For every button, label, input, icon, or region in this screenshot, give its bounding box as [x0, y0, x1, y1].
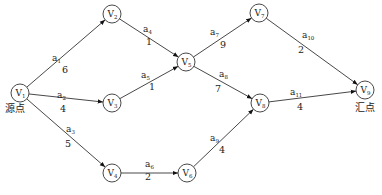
edge-name-label: a6 — [145, 159, 154, 170]
edge-weight-label: 7 — [215, 83, 221, 94]
node-v9: V9 — [356, 81, 374, 99]
edge-arrow — [193, 109, 253, 167]
edge-name-label: a2 — [57, 90, 66, 101]
diagram-canvas: a16a24a35a41a51a62a79a87a94a102a114 V1V2… — [0, 0, 382, 195]
node-v3: V3 — [103, 94, 121, 112]
node-v5: V5 — [177, 53, 195, 71]
node-v8: V8 — [251, 94, 269, 112]
edge-name-label: a1 — [52, 53, 61, 64]
edge-weight-label: 5 — [65, 138, 71, 149]
edge-weight-label: 6 — [62, 64, 68, 75]
edge-v4-v6: a62 — [121, 159, 178, 182]
node-v1: V1 — [11, 84, 29, 102]
edge-v2-v5: a41 — [120, 19, 179, 57]
node-v2: V2 — [103, 5, 121, 23]
edge-name-label: a9 — [210, 133, 219, 144]
aoe-network-diagram: a16a24a35a41a51a62a79a87a94a102a114 V1V2… — [0, 0, 382, 195]
edge-weight-label: 4 — [219, 144, 225, 155]
edge-arrow — [29, 94, 103, 102]
edge-arrow — [27, 20, 105, 87]
edge-v5-v7: a79 — [193, 18, 251, 57]
edge-weight-label: 1 — [149, 81, 155, 92]
edge-weight-label: 2 — [145, 171, 151, 182]
edge-v6-v8: a94 — [193, 109, 253, 167]
sink-label: 汇点 — [355, 101, 375, 113]
node-v6: V6 — [178, 164, 196, 182]
edge-arrow — [193, 18, 251, 57]
node-v7: V7 — [250, 4, 268, 22]
edge-weight-label: 4 — [60, 103, 66, 114]
edge-v3-v5: a51 — [120, 66, 178, 98]
edge-name-label: a7 — [210, 27, 219, 38]
edge-name-label: a5 — [141, 70, 150, 81]
edge-arrow — [266, 18, 357, 84]
edge-weight-label: 1 — [146, 36, 152, 47]
edge-name-label: a8 — [219, 69, 228, 80]
edge-weight-label: 2 — [298, 44, 304, 55]
edge-v7-v9: a102 — [266, 18, 357, 84]
edge-weight-label: 9 — [220, 39, 226, 50]
edge-name-label: a11 — [290, 87, 302, 98]
edge-weight-label: 4 — [297, 101, 303, 112]
node-v4: V4 — [103, 164, 121, 182]
edge-v5-v8: a87 — [194, 66, 252, 98]
source-label: 源点 — [5, 102, 25, 114]
edge-name-label: a3 — [66, 124, 75, 135]
edge-v1-v2: a16 — [27, 20, 105, 87]
edge-name-label: a4 — [143, 24, 152, 35]
edge-arrow — [269, 91, 356, 102]
edge-v8-v9: a114 — [269, 87, 356, 112]
edge-name-label: a10 — [302, 30, 315, 41]
